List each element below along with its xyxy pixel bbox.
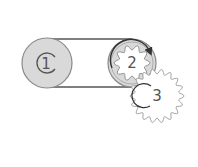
pulley-1-label: 1 — [41, 55, 51, 73]
belt-gear-diagram: 1 2 3 — [0, 0, 198, 167]
pulley-1: 1 — [22, 38, 72, 88]
pulley-2-label: 2 — [127, 54, 137, 72]
gear-3-label: 3 — [152, 87, 162, 105]
